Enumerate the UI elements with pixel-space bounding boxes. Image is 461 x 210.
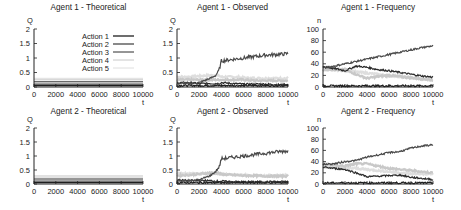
figure: Agent 1 - TheoreticalQt00.511.5202000400… [0, 0, 461, 210]
legend-label: Action 5 [82, 64, 109, 73]
y-tick-label: 0 [315, 180, 319, 189]
x-tick-label: 0 [321, 90, 325, 99]
x-tick-label: 10000 [423, 90, 444, 99]
y-tick-label: 0 [26, 180, 30, 189]
y-tick-label: 40 [311, 59, 319, 68]
chart-title: Agent 2 - Frequency [341, 107, 416, 116]
chart-title: Agent 2 - Theoretical [51, 107, 127, 116]
x-tick-label: 0 [175, 187, 179, 196]
y-tick-label: 2 [169, 25, 173, 34]
y-tick-label: 100 [306, 25, 319, 34]
y-tick-label: 80 [311, 36, 319, 45]
x-tick-label: 4000 [69, 90, 86, 99]
y-tick-label: 2 [26, 25, 30, 34]
x-tick-label: 2000 [47, 90, 64, 99]
x-tick-label: 2000 [337, 187, 354, 196]
x-tick-label: 4000 [213, 187, 230, 196]
series-action-1 [323, 182, 433, 184]
y-tick-label: 20 [311, 168, 319, 177]
y-tick-label: 40 [311, 157, 319, 166]
x-tick-label: 4000 [359, 90, 376, 99]
x-tick-label: 0 [321, 187, 325, 196]
figure-canvas: Agent 1 - TheoreticalQt00.511.5202000400… [0, 0, 461, 210]
y-tick-label: 0.5 [20, 166, 30, 175]
chart-title: Agent 1 - Theoretical [51, 3, 127, 12]
x-axis-label: t [432, 98, 435, 107]
y-tick-label: 60 [311, 48, 319, 57]
x-tick-label: 6000 [235, 187, 252, 196]
chart-title: Agent 1 - Observed [197, 3, 268, 12]
y-tick-label: 0 [26, 83, 30, 92]
y-tick-label: 1 [169, 54, 173, 63]
x-tick-label: 0 [175, 90, 179, 99]
y-tick-label: 20 [311, 71, 319, 80]
x-tick-label: 2000 [191, 90, 208, 99]
chart-title: Agent 2 - Observed [197, 107, 268, 116]
y-tick-label: 60 [311, 146, 319, 155]
series-action-2 [323, 144, 433, 164]
y-tick-label: 1 [26, 54, 30, 63]
y-tick-label: 0 [315, 83, 319, 92]
x-tick-label: 8000 [113, 187, 130, 196]
y-tick-label: 80 [311, 135, 319, 144]
y-tick-label: 0 [169, 83, 173, 92]
chart-a1-frequency: Agent 1 - Frequencynt0204060801000200040… [306, 3, 443, 107]
x-tick-label: 6000 [235, 90, 252, 99]
chart-a2-observed: Agent 2 - ObservedQt00.511.5202000400060… [163, 107, 299, 204]
x-axis-label: t [432, 195, 435, 204]
x-tick-label: 8000 [257, 187, 274, 196]
x-tick-label: 6000 [381, 187, 398, 196]
series-action-1 [323, 85, 433, 87]
y-tick-label: 0.5 [20, 68, 30, 77]
x-tick-label: 10000 [278, 187, 299, 196]
x-tick-label: 0 [32, 90, 36, 99]
x-tick-label: 6000 [91, 90, 108, 99]
chart-a1-observed: Agent 1 - ObservedQt00.511.5202000400060… [163, 3, 299, 107]
x-tick-label: 8000 [403, 187, 420, 196]
series-action-4 [177, 79, 288, 82]
x-tick-label: 10000 [278, 90, 299, 99]
x-tick-label: 4000 [69, 187, 86, 196]
y-tick-label: 0 [169, 180, 173, 189]
x-tick-label: 8000 [257, 90, 274, 99]
x-tick-label: 2000 [337, 90, 354, 99]
x-tick-label: 10000 [133, 90, 154, 99]
y-tick-label: 100 [306, 124, 319, 133]
x-tick-label: 8000 [113, 90, 130, 99]
chart-a2-theoretical: Agent 2 - TheoreticalQt00.511.5202000400… [20, 107, 154, 204]
x-tick-label: 4000 [213, 90, 230, 99]
legend: Action 1Action 2Action 3Action 4Action 5 [82, 32, 134, 73]
x-tick-label: 2000 [191, 187, 208, 196]
y-tick-label: 0.5 [163, 166, 173, 175]
y-tick-label: 2 [169, 124, 173, 133]
x-axis-label: t [142, 195, 145, 204]
x-axis-label: t [287, 195, 290, 204]
y-tick-label: 1.5 [20, 39, 30, 48]
y-tick-label: 2 [26, 124, 30, 133]
x-tick-label: 6000 [381, 90, 398, 99]
chart-a2-frequency: Agent 2 - Frequencynt0204060801000200040… [306, 107, 443, 204]
x-tick-label: 6000 [91, 187, 108, 196]
legend-entry: Action 5 [82, 64, 134, 73]
x-tick-label: 10000 [423, 187, 444, 196]
y-tick-label: 1.5 [20, 138, 30, 147]
y-tick-label: 1 [169, 152, 173, 161]
x-tick-label: 2000 [47, 187, 64, 196]
y-tick-label: 1 [26, 152, 30, 161]
y-tick-label: 1.5 [163, 39, 173, 48]
series-action-2 [323, 45, 433, 68]
x-axis-label: t [142, 98, 145, 107]
x-tick-label: 10000 [133, 187, 154, 196]
x-tick-label: 4000 [359, 187, 376, 196]
chart-title: Agent 1 - Frequency [341, 3, 416, 12]
x-axis-label: t [287, 98, 290, 107]
y-tick-label: 1.5 [163, 138, 173, 147]
x-tick-label: 8000 [403, 90, 420, 99]
y-tick-label: 0.5 [163, 68, 173, 77]
x-tick-label: 0 [32, 187, 36, 196]
